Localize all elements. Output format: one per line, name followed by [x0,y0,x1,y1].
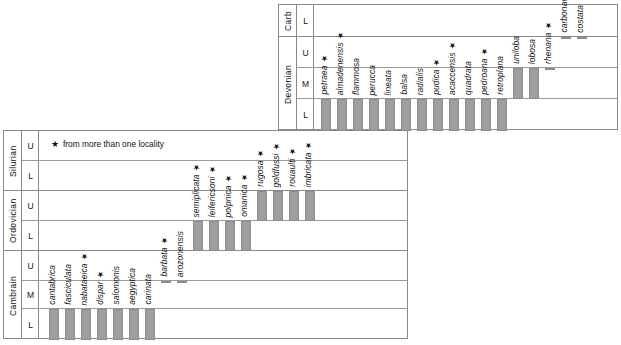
epoch-label-l: L [297,99,314,131]
multi-locality-star-icon: ★ [255,149,264,160]
taxon-label: dispar ★ [96,270,108,305]
range-bar [353,99,363,131]
range-bar [177,281,187,283]
period-label-devonian: Devonian [279,37,297,131]
multi-locality-star-icon: ★ [159,236,168,247]
taxon-label: cantabrica [48,265,60,305]
range-bar [113,309,123,340]
range-bar [449,99,459,131]
range-bar [401,99,411,131]
range-bar [81,309,91,340]
taxon-label: imbricata ★ [304,141,316,187]
epoch-label-l: L [22,309,39,340]
multi-locality-star-icon: ★ [79,252,88,263]
taxon-label: lineata [384,70,396,95]
multi-locality-star-icon: ★ [271,142,280,153]
range-bar [529,68,539,99]
range-bar [561,37,571,39]
period-label-carb: Carb [279,5,297,37]
row-divider [22,308,407,309]
legend-star-icon: ★ [51,139,59,149]
range-bar [49,309,59,340]
multi-locality-star-icon: ★ [95,270,104,281]
epoch-label-u: U [22,251,39,281]
multi-locality-star-icon: ★ [223,174,232,185]
range-bar [385,99,395,131]
range-bar [161,281,171,283]
taxon-label: flammosa [352,58,364,95]
taxon-label: almadenensis ★ [336,31,348,95]
taxon-label: uniloba [512,36,524,64]
taxon-label: aegyptica [128,268,140,305]
range-bar [97,309,107,340]
multi-locality-star-icon: ★ [479,47,488,58]
range-bar [497,99,507,131]
taxon-label: fasciculata [64,264,76,305]
taxon-label: costata [576,5,588,33]
period-label-silurian: Silurian [4,131,22,191]
multi-locality-star-icon: ★ [319,54,328,65]
upper-stratigraphic-block: LCarbUMLDevonianpetraea ★almadenensis ★f… [278,4,618,130]
multi-locality-star-icon: ★ [431,58,440,69]
taxon-label: nabataeica ★ [80,252,92,305]
range-bar [545,68,555,70]
range-bar [225,221,235,251]
taxon-label: carbonaria [560,0,572,33]
range-bar [577,37,587,39]
range-bar [241,221,251,251]
taxon-label: pudica ★ [432,58,444,95]
taxon-label: rouaulti ★ [288,147,300,187]
lower-stratigraphic-block: ULSilurianULOrdovicianUMLCambraincantabr… [3,130,408,339]
epoch-label-l: L [22,161,39,191]
taxon-label: rugosa ★ [256,149,268,187]
range-bar [369,99,379,131]
range-bar [289,191,299,221]
range-bar [417,99,427,131]
range-bar [129,309,139,340]
range-bar [273,191,283,221]
range-chart-figure: LCarbUMLDevonianpetraea ★almadenensis ★f… [0,0,621,345]
taxon-label: lobosa [528,39,540,64]
range-bar [481,99,491,131]
taxon-label: pedroana ★ [480,47,492,95]
period-label-cambrain: Cambrain [4,251,22,340]
taxon-label: quadrata [464,61,476,95]
range-bar [305,191,315,221]
legend-label: from more than one locality [63,139,164,149]
taxon-label: goldfussi ★ [272,142,284,187]
taxon-label: perucca [368,65,380,96]
taxon-label: polpnica ★ [224,174,236,217]
period-label-ordovician: Ordovician [4,191,22,251]
period-divider [4,250,407,251]
taxon-label: petraea ★ [320,54,332,95]
taxon-label: arozonensis [176,231,188,277]
multi-locality-star-icon: ★ [191,163,200,174]
taxon-label: semiplicata ★ [192,163,204,217]
range-bar [145,309,155,340]
multi-locality-star-icon: ★ [239,173,248,184]
range-bar [465,99,475,131]
taxon-label: radialis [416,68,428,95]
epoch-label-m: M [22,281,39,309]
epoch-label-m: M [297,68,314,99]
taxon-label: acaccensis ★ [448,41,460,95]
taxon-label: salomonis [112,266,124,305]
taxon-label: leifericsoni ★ [208,165,220,217]
epoch-label-u: U [297,37,314,68]
range-bar [513,68,523,99]
range-bar [337,99,347,131]
range-bar [209,221,219,251]
legend: ★ from more than one locality [51,139,164,149]
taxon-label: barbata ★ [160,236,172,277]
taxon-label: retroplana [496,56,508,95]
multi-locality-star-icon: ★ [287,147,296,158]
taxon-label: balsa [400,74,412,95]
range-bar [65,309,75,340]
taxon-label: rhenana ★ [544,21,556,64]
multi-locality-star-icon: ★ [335,31,344,42]
range-bar [257,191,267,221]
range-bar [193,221,203,251]
epoch-label-u: U [22,191,39,221]
period-divider [4,190,407,191]
taxon-label: carinata [144,274,156,305]
